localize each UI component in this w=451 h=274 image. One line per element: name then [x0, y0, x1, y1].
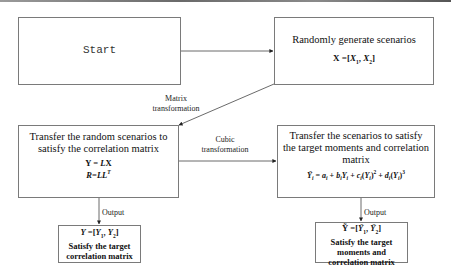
edge-label-matrix-transformation: Matrix transformation	[144, 94, 208, 114]
correlate-formula-2: R=LLT	[19, 168, 178, 180]
output-right-formula: Ỹ =[Ỹ1, Ỹ2]	[316, 224, 407, 237]
edge-label-output-left: Output	[102, 208, 132, 218]
node-output-right: Ỹ =[Ỹ1, Ỹ2] Satisfy the target moments a…	[315, 222, 408, 263]
node-moments: Transfer the scenarios to satisfy the ta…	[277, 125, 435, 198]
generate-title: Randomly generate scenarios	[275, 34, 433, 46]
node-output-left: Y =[Y1, Y2] Satisfy the target correlati…	[58, 225, 141, 263]
output-left-line1: Satisfy the target	[59, 241, 140, 251]
edge-label-cubic-transformation: Cubic transformation	[190, 135, 260, 155]
node-generate: Randomly generate scenarios X =[X1, X2]	[274, 17, 434, 85]
output-right-line2: moments and	[316, 247, 407, 257]
node-correlate: Transfer the random scenarios to satisfy…	[18, 125, 179, 198]
moments-formula: Ỹi = ai + biYi + ci(Yi)2 + di(Yi)3	[278, 168, 434, 183]
output-right-line3: correlation matrix	[316, 257, 407, 267]
moments-title-line1: Transfer the scenarios to satisfy	[278, 130, 434, 142]
output-right-line1: Satisfy the target	[316, 237, 407, 247]
generate-formula: X =[X1, X2]	[275, 54, 433, 67]
output-left-formula: Y =[Y1, Y2]	[59, 228, 140, 241]
node-start: Start	[18, 17, 181, 85]
output-left-line2: correlation matrix	[59, 251, 140, 261]
correlate-formula-1: Y = LX	[19, 159, 178, 168]
moments-title-line2: the target moments and correlation	[278, 142, 434, 154]
correlate-title-line1: Transfer the random scenarios to	[19, 131, 178, 143]
start-label: Start	[19, 44, 180, 56]
edge-label-output-right: Output	[364, 208, 394, 218]
correlate-title-line2: satisfy the correlation matrix	[19, 143, 178, 155]
moments-title-line3: matrix	[278, 154, 434, 166]
